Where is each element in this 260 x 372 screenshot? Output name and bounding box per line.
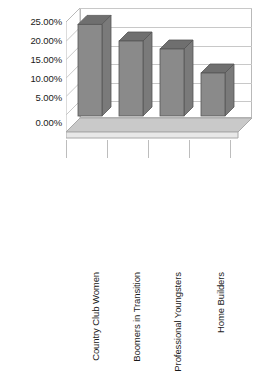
y-axis: 25.00% 20.00% 15.00% 10.00% 5.00% 0.00% [4,0,62,278]
x-axis-separator [107,140,108,158]
y-axis-tick-label: 5.00% [4,93,62,103]
x-axis-separator [189,140,190,158]
x-axis-tick-label-text: Country Club Women [90,272,101,361]
x-axis-separator [148,140,149,158]
y-axis-tick-label: 10.00% [4,74,62,84]
x-axis-separator [230,140,231,158]
plot-area [66,8,254,140]
y-axis-tick-label: 20.00% [4,36,62,46]
x-axis-separator [66,140,67,158]
x-axis-tick-label: Boomers in Transition [131,272,142,362]
y-axis-tick-label: 25.00% [4,17,62,27]
x-axis-tick-label: Home Builders [215,272,226,333]
x-axis: Country Club Women Boomers in Transition… [66,140,254,278]
y-axis-tick-label: 0.00% [4,118,62,128]
x-axis-tick-label-text: Home Builders [215,272,226,333]
y-axis-tick-label: 15.00% [4,55,62,65]
x-axis-tick-label: Country Club Women [90,272,101,361]
x-axis-tick-label-text: Boomers in Transition [131,272,142,362]
x-axis-tick-label: Professional Youngsters [172,272,183,372]
x-axis-tick-label-text: Professional Youngsters [172,272,183,372]
